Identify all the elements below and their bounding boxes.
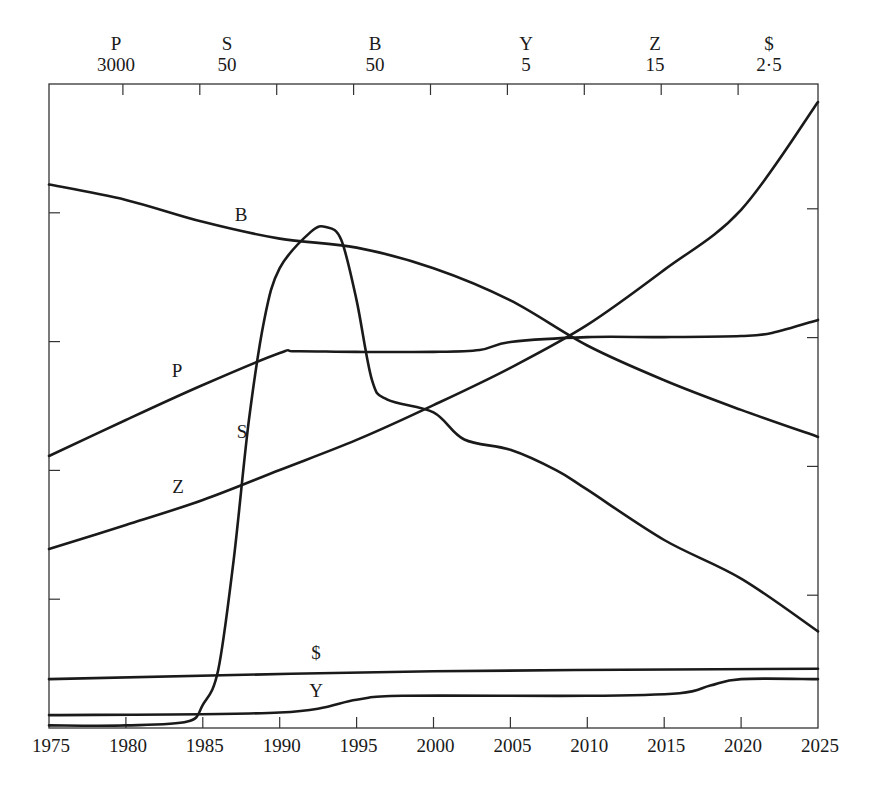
x-tick-label: 1980 (109, 735, 147, 756)
x-tick-label: 2015 (647, 735, 685, 756)
x-tick-label: 2025 (801, 735, 839, 756)
series-label-p: P (172, 360, 183, 381)
scale-header-series-2: B (369, 33, 382, 54)
x-axis-ticks (126, 717, 741, 728)
series-line-z (49, 102, 818, 549)
series-label-dollar: $ (311, 642, 321, 663)
series-labels: BPSZ$Y (172, 204, 323, 701)
scale-header-max-1: 50 (218, 54, 237, 75)
series-line-s (49, 226, 818, 725)
series-label-z: Z (172, 476, 184, 497)
x-tick-label: 1990 (263, 735, 301, 756)
x-tick-label: 2005 (493, 735, 531, 756)
scale-header-max-4: 15 (646, 54, 665, 75)
x-tick-label: 2000 (417, 735, 455, 756)
series-line-p (49, 320, 818, 456)
x-axis-labels: 1975198019851990199520002005201020152020… (32, 735, 839, 756)
scale-header-max-3: 5 (521, 54, 531, 75)
scale-header-series-0: P (111, 33, 122, 54)
scale-header-series-4: Z (649, 33, 661, 54)
series-label-y: Y (309, 680, 323, 701)
x-tick-label: 2020 (724, 735, 762, 756)
series-line-y (49, 679, 818, 715)
series-curves (49, 102, 818, 726)
scale-header-series-5: $ (764, 33, 774, 54)
scale-header-max-2: 50 (366, 54, 385, 75)
x-tick-label: 1975 (32, 735, 70, 756)
series-label-s: S (237, 421, 248, 442)
scale-header-max-0: 3000 (97, 54, 135, 75)
scale-header-series-1: S (222, 33, 233, 54)
series-line-b (49, 185, 818, 437)
multi-series-line-chart: P3000S50B50Y5Z15$2·5 1975198019851990199… (0, 0, 876, 795)
top-axis-ticks (123, 84, 738, 95)
scale-header-series-3: Y (519, 33, 533, 54)
x-tick-label: 1995 (340, 735, 378, 756)
scale-header-max-5: 2·5 (756, 54, 781, 75)
scale-header: P3000S50B50Y5Z15$2·5 (97, 33, 782, 75)
x-tick-label: 1985 (186, 735, 224, 756)
series-label-b: B (235, 204, 248, 225)
series-line-dollar (49, 669, 818, 679)
x-tick-label: 2010 (570, 735, 608, 756)
